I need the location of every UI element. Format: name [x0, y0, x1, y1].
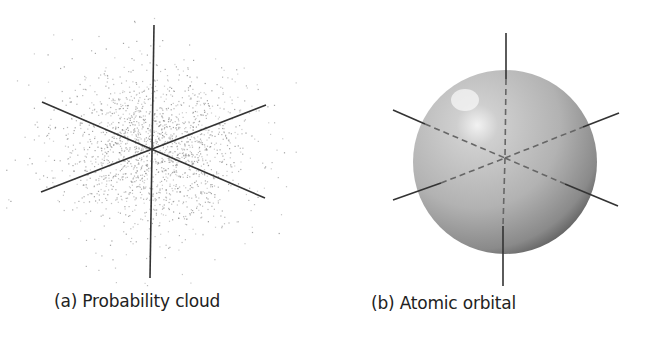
caption-atomic-orbital: (b) Atomic orbital: [371, 293, 516, 313]
caption-probability-cloud: (a) Probability cloud: [54, 291, 220, 311]
cloud-axes: [41, 25, 266, 278]
